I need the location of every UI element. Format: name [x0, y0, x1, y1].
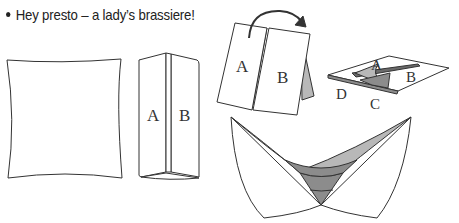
step3-label-a: A — [236, 57, 249, 76]
step4-label-c: C — [370, 96, 380, 112]
step2-label-b: B — [179, 106, 190, 125]
step4-label-a: A — [371, 57, 382, 73]
step1-square — [7, 59, 122, 178]
step4-label-d: D — [336, 86, 347, 102]
step2-label-a: A — [147, 106, 160, 125]
step4-label-b: B — [406, 69, 416, 85]
step5-brassiere — [231, 117, 411, 218]
folding-diagram: A B A B A B C D — [0, 0, 459, 223]
step3-opening-fold — [217, 11, 314, 115]
step3-label-b: B — [277, 68, 288, 87]
